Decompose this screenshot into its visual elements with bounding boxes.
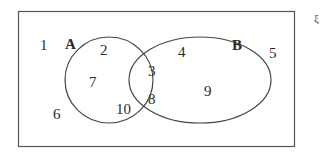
set-a-ellipse — [65, 37, 153, 123]
set-a-label: A — [65, 36, 76, 52]
universal-set-symbol: ξ — [314, 12, 319, 25]
element-7: 7 — [89, 74, 97, 90]
set-b-label: B — [232, 37, 242, 53]
venn-diagram: ξ A B 1 2 7 10 6 3 8 4 9 5 — [0, 0, 328, 152]
element-3: 3 — [148, 63, 156, 79]
element-5: 5 — [269, 45, 277, 61]
set-b-ellipse — [129, 37, 271, 123]
element-6: 6 — [53, 106, 61, 122]
element-9: 9 — [204, 83, 212, 99]
element-10: 10 — [116, 101, 131, 117]
element-2: 2 — [100, 42, 108, 58]
element-8: 8 — [148, 91, 156, 107]
universal-set-rectangle — [19, 12, 295, 147]
element-1: 1 — [40, 37, 48, 53]
element-4: 4 — [178, 44, 186, 60]
